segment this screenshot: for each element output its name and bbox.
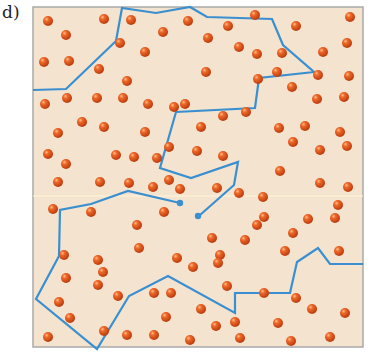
particle — [315, 145, 325, 155]
particle — [250, 10, 260, 20]
particle — [98, 267, 108, 277]
particle — [180, 99, 190, 109]
particle — [166, 288, 176, 298]
particle — [286, 336, 296, 346]
particle — [240, 235, 250, 245]
particle — [183, 16, 193, 26]
particle — [252, 220, 262, 230]
particle — [230, 317, 240, 327]
particle — [288, 228, 298, 238]
particle — [122, 330, 132, 340]
particle — [92, 93, 102, 103]
particle — [61, 159, 71, 169]
particle — [140, 127, 150, 137]
particle — [161, 312, 171, 322]
particle — [211, 321, 221, 331]
particle — [223, 21, 233, 31]
particle — [192, 146, 202, 156]
particle — [196, 304, 206, 314]
particle-diagram — [0, 0, 377, 358]
particle — [94, 64, 104, 74]
particle — [124, 178, 134, 188]
particle — [300, 121, 310, 131]
particle — [291, 293, 301, 303]
particle — [222, 281, 232, 291]
particle — [62, 93, 72, 103]
particle — [86, 207, 96, 217]
particle — [196, 122, 206, 132]
particle — [218, 111, 228, 121]
particle — [169, 102, 179, 112]
particle — [340, 308, 350, 318]
particle — [40, 99, 50, 109]
particle — [118, 93, 128, 103]
particle — [213, 258, 223, 268]
particle — [303, 214, 313, 224]
particle — [53, 177, 63, 187]
particle — [185, 335, 195, 345]
particle — [129, 152, 139, 162]
particle — [43, 332, 53, 342]
particle — [43, 149, 53, 159]
particle — [64, 56, 74, 66]
particle — [111, 150, 121, 160]
particle — [188, 262, 198, 272]
particle — [235, 333, 245, 343]
particle — [152, 153, 162, 163]
particle — [43, 16, 53, 26]
particle — [143, 99, 153, 109]
particle — [313, 70, 323, 80]
panel-background — [33, 7, 363, 347]
particle — [159, 207, 169, 217]
particle — [158, 27, 168, 37]
particle — [344, 71, 354, 81]
particle — [65, 313, 75, 323]
particle — [126, 15, 136, 25]
particle — [234, 42, 244, 52]
particle — [122, 76, 132, 86]
particle — [61, 273, 71, 283]
particle — [99, 14, 109, 24]
particle — [99, 326, 109, 336]
particle — [203, 33, 213, 43]
particle — [288, 137, 298, 147]
particle — [334, 246, 344, 256]
particle — [252, 49, 262, 59]
particle — [335, 127, 345, 137]
particle — [253, 74, 263, 84]
particle — [53, 128, 63, 138]
particle — [172, 253, 182, 263]
particle — [342, 38, 352, 48]
particle — [212, 183, 222, 193]
particle — [164, 142, 174, 152]
particle — [315, 178, 325, 188]
particle — [93, 280, 103, 290]
particle — [312, 94, 322, 104]
particle — [115, 38, 125, 48]
particle — [307, 304, 317, 314]
particle — [113, 291, 123, 301]
particle — [99, 122, 109, 132]
particle — [59, 250, 69, 260]
particle — [318, 47, 328, 57]
particle — [287, 82, 297, 92]
particle — [77, 117, 87, 127]
particle — [343, 182, 353, 192]
particle — [241, 107, 251, 117]
particle — [149, 330, 159, 340]
particle — [39, 57, 49, 67]
particle — [345, 12, 355, 22]
particle — [207, 233, 217, 243]
particle — [333, 200, 343, 210]
trajectory-end-2 — [195, 213, 201, 219]
particle — [132, 220, 142, 230]
particle — [140, 47, 150, 57]
particle — [339, 92, 349, 102]
particle — [291, 21, 301, 31]
particle — [272, 67, 282, 77]
particle — [325, 332, 335, 342]
particle — [234, 188, 244, 198]
particle — [61, 30, 71, 40]
particle — [277, 48, 287, 58]
particle — [54, 297, 64, 307]
